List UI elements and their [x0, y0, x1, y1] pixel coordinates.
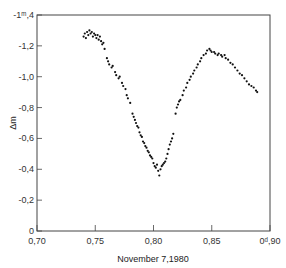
data-point — [250, 85, 252, 87]
x-tick-label: 0,70 — [28, 236, 46, 246]
data-point — [190, 76, 192, 78]
data-point — [211, 51, 213, 53]
data-point — [189, 79, 191, 81]
data-point — [186, 82, 188, 84]
light-curve-chart: 0-0,2-0,4-0,6-0,8-1,0-1,2-1ᵐ,4 0,700,750… — [0, 0, 286, 268]
data-point — [168, 148, 170, 150]
x-tick-label: 0,80 — [145, 236, 163, 246]
data-point — [88, 29, 90, 31]
data-point — [112, 65, 114, 67]
y-tick-label: -1,0 — [18, 72, 34, 82]
y-tick-label: -0,4 — [18, 164, 34, 174]
data-point — [97, 34, 99, 36]
data-point — [137, 127, 139, 129]
data-point — [205, 53, 207, 55]
data-point — [197, 63, 199, 65]
data-point — [98, 39, 100, 41]
y-axis-title: Δm — [8, 116, 18, 130]
data-point — [185, 86, 187, 88]
data-point — [92, 36, 94, 38]
data-point — [87, 34, 89, 36]
data-point — [138, 131, 140, 133]
data-point — [124, 88, 126, 90]
data-point — [170, 140, 172, 142]
data-point — [182, 94, 184, 96]
data-point — [196, 66, 198, 68]
data-point — [114, 71, 116, 73]
y-tick-label: -1ᵐ,4 — [13, 10, 34, 20]
data-point — [134, 119, 136, 121]
data-point — [232, 63, 234, 65]
data-point — [241, 74, 243, 76]
data-point — [176, 107, 178, 109]
data-point — [227, 59, 229, 61]
data-point — [177, 103, 179, 105]
data-point — [239, 73, 241, 75]
data-point — [175, 113, 177, 115]
x-tick-label: 0ᵈ,90 — [260, 236, 281, 246]
data-point — [129, 102, 131, 104]
data-point — [253, 86, 255, 88]
data-point — [248, 83, 250, 85]
data-point — [119, 76, 121, 78]
x-axis: 0,700,750,800,850ᵈ,90 — [28, 225, 280, 246]
data-point — [164, 161, 166, 163]
data-point — [165, 157, 167, 159]
data-point — [106, 57, 108, 59]
data-point — [108, 63, 110, 65]
data-point — [94, 34, 96, 36]
data-point — [104, 48, 106, 50]
data-point — [155, 167, 157, 169]
data-point — [143, 142, 145, 144]
data-point — [100, 40, 102, 42]
y-tick-label: -1,2 — [18, 41, 34, 51]
data-point — [203, 54, 205, 56]
data-point — [152, 162, 154, 164]
data-point — [91, 31, 93, 33]
data-point — [236, 69, 238, 71]
data-point — [127, 97, 129, 99]
data-point — [135, 122, 137, 124]
data-point — [256, 91, 258, 93]
plot-frame — [37, 15, 270, 231]
data-point — [99, 36, 101, 38]
data-point — [214, 53, 216, 55]
y-tick-label: -0,6 — [18, 133, 34, 143]
data-point — [148, 151, 150, 153]
data-point — [133, 116, 135, 118]
data-point — [85, 37, 87, 39]
data-point — [151, 157, 153, 159]
data-point — [84, 32, 86, 34]
data-point — [179, 99, 181, 101]
data-point — [206, 49, 208, 51]
data-point — [158, 174, 160, 176]
data-point — [166, 153, 168, 155]
data-point — [159, 168, 161, 170]
data-point — [172, 133, 174, 135]
data-point — [183, 90, 185, 92]
data-point — [229, 62, 231, 64]
data-point — [86, 31, 88, 33]
data-point — [171, 137, 173, 139]
x-tick-label: 0,75 — [86, 236, 104, 246]
data-point — [199, 60, 201, 62]
data-point — [131, 113, 133, 115]
data-point — [218, 53, 220, 55]
data-point — [234, 66, 236, 68]
data-point — [225, 57, 227, 59]
y-tick-label: -0,2 — [18, 195, 34, 205]
data-point — [169, 144, 171, 146]
data-point — [141, 136, 143, 138]
data-point — [115, 74, 117, 76]
data-point — [200, 57, 202, 59]
data-point — [156, 164, 158, 166]
data-point — [126, 94, 128, 96]
data-point — [157, 170, 159, 172]
data-point — [83, 36, 85, 38]
data-point — [193, 69, 195, 71]
data-point — [246, 80, 248, 82]
x-axis-title: November 7,1980 — [117, 254, 189, 264]
data-point — [192, 73, 194, 75]
x-tick-label: 0,85 — [203, 236, 221, 246]
data-point — [221, 56, 223, 58]
